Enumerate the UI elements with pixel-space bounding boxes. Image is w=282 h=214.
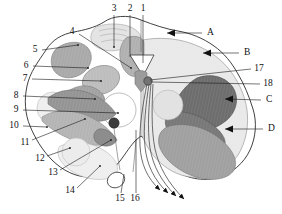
label-4: 4 [70,26,75,36]
label-17: 17 [254,63,264,73]
label-16: 16 [130,193,140,203]
label-11: 11 [20,137,29,147]
fiber-origin-node [144,77,152,85]
cross-section-svg: 1 2 3 4 5 6 7 8 9 10 11 12 13 14 15 16 1… [0,0,282,214]
label-A: A [207,27,214,37]
label-10: 10 [9,120,19,130]
label-14: 14 [65,185,75,195]
label-3: 3 [112,3,117,13]
label-6: 6 [24,60,29,70]
label-2: 2 [128,3,133,13]
label-12: 12 [35,153,45,163]
ventral-median-fissure [133,140,136,172]
left-lower-circle [62,138,90,166]
label-5: 5 [33,44,38,54]
anatomy-figure: 1 2 3 4 5 6 7 8 9 10 11 12 13 14 15 16 1… [0,0,282,214]
label-9: 9 [14,104,19,114]
label-13: 13 [48,167,58,177]
right-pale-circle [153,90,183,120]
label-1: 1 [141,3,146,13]
label-C: C [266,94,272,104]
label-B: B [244,47,250,57]
label-8: 8 [14,90,19,100]
median-dark-nucleus [109,118,119,128]
label-D: D [268,123,275,133]
label-15: 15 [115,193,125,203]
label-7: 7 [23,73,28,83]
label-18: 18 [263,78,273,88]
